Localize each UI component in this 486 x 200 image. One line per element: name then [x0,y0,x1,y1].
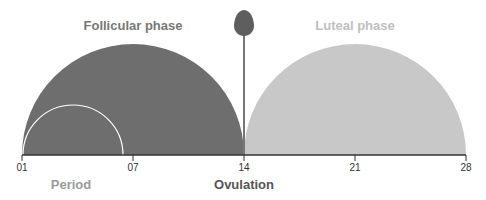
tick-label-07: 07 [127,162,138,173]
luteal-phase-label: Luteal phase [315,18,394,33]
tick-label-28: 28 [460,162,471,173]
follicular-phase-label: Follicular phase [84,18,183,33]
ovulation-label: Ovulation [214,177,274,192]
tick-label-01: 01 [16,162,27,173]
tick-label-21: 21 [349,162,360,173]
period-label: Period [51,177,91,192]
egg-icon [234,10,254,36]
tick-label-14: 14 [238,162,249,173]
luteal-phase-semicircle [244,44,466,155]
follicular-phase-semicircle [22,44,244,155]
